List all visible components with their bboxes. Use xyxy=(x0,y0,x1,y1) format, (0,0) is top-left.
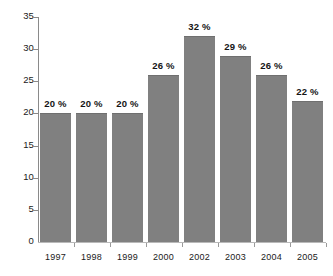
bar-value-label: 26 % xyxy=(256,60,287,71)
bar-value-label: 20 % xyxy=(40,98,71,109)
x-axis-category-label: 1998 xyxy=(76,252,107,262)
bar-value-label: 32 % xyxy=(184,21,215,32)
bar-value-label: 29 % xyxy=(220,41,251,52)
x-axis-category-label: 2002 xyxy=(184,252,215,262)
bar xyxy=(112,113,143,242)
plot-area: 20 %199720 %199820 %199926 %200032 %2002… xyxy=(0,0,333,276)
bar xyxy=(148,75,179,242)
x-axis-category-label: 1999 xyxy=(112,252,143,262)
bar xyxy=(256,75,287,242)
x-axis-category-label: 1997 xyxy=(40,252,71,262)
x-axis-category-label: 2003 xyxy=(220,252,251,262)
bar xyxy=(76,113,107,242)
bar xyxy=(220,56,251,242)
x-axis-category-label: 2004 xyxy=(256,252,287,262)
x-axis-category-label: 2000 xyxy=(148,252,179,262)
x-axis-category-label: 2005 xyxy=(292,252,323,262)
bar-value-label: 20 % xyxy=(76,98,107,109)
bar-value-label: 20 % xyxy=(112,98,143,109)
bar-value-label: 26 % xyxy=(148,60,179,71)
bar xyxy=(184,36,215,242)
bar-value-label: 22 % xyxy=(292,86,323,97)
bar xyxy=(292,101,323,242)
bar xyxy=(40,113,71,242)
bar-chart: 05101520253035 20 %199720 %199820 %19992… xyxy=(0,0,333,276)
